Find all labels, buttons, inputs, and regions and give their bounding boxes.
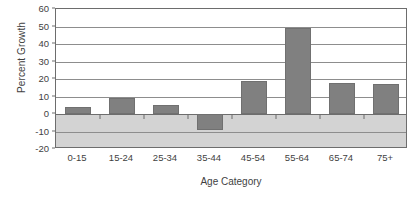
y-axis-tick-label: 20 xyxy=(38,73,49,84)
bar xyxy=(109,98,135,114)
y-axis-tick-label: -20 xyxy=(35,143,49,154)
y-axis-tick-labels: 6050403020100-10-20 xyxy=(18,8,52,148)
y-axis-tick-label: 50 xyxy=(38,20,49,31)
y-axis-tick-label: 60 xyxy=(38,3,49,14)
bar-chart: Percent Growth 6050403020100-10-20 0-151… xyxy=(0,0,418,200)
y-axis-tick-label: 30 xyxy=(38,55,49,66)
x-axis-tick-label: 75+ xyxy=(377,152,393,163)
bar-slot xyxy=(276,9,320,147)
x-axis-tick-label: 45-54 xyxy=(241,152,265,163)
y-axis-tick-label: -10 xyxy=(35,125,49,136)
bar-slot xyxy=(320,9,364,147)
bar xyxy=(285,28,311,114)
bar-slot xyxy=(232,9,276,147)
x-axis-tick-label: 25-34 xyxy=(153,152,177,163)
bar xyxy=(241,81,267,114)
bar-slot xyxy=(56,9,100,147)
bar xyxy=(373,84,399,114)
x-axis-tick-label: 65-74 xyxy=(329,152,353,163)
x-axis-tick-label: 0-15 xyxy=(67,152,86,163)
y-axis-tick-label: 40 xyxy=(38,38,49,49)
x-axis-tick-label: 35-44 xyxy=(197,152,221,163)
bars-group xyxy=(56,9,406,147)
x-axis-title: Age Category xyxy=(55,176,407,187)
bar-slot xyxy=(364,9,406,147)
x-axis-tick-label: 55-64 xyxy=(285,152,309,163)
bar-slot xyxy=(188,9,232,147)
bar xyxy=(329,83,355,115)
y-axis-tick-label: 0 xyxy=(44,108,49,119)
x-axis-tick-labels: 0-1515-2425-3435-4445-5455-6465-7475+ xyxy=(55,152,407,168)
bar-slot xyxy=(144,9,188,147)
y-axis-tick-label: 10 xyxy=(38,90,49,101)
x-axis-tick-label: 15-24 xyxy=(109,152,133,163)
plot-area xyxy=(55,8,407,148)
bar-slot xyxy=(100,9,144,147)
bar xyxy=(197,114,223,130)
bar xyxy=(65,107,91,114)
bar xyxy=(153,105,179,114)
